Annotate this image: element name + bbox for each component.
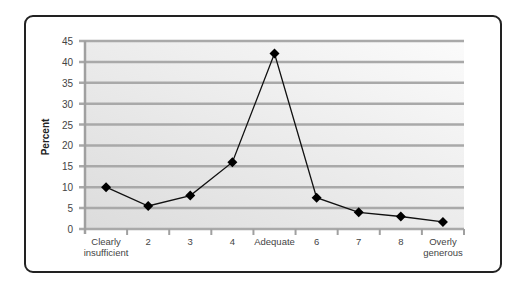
y-tick-label: 30 bbox=[62, 98, 73, 109]
plot-area bbox=[85, 41, 464, 229]
y-tick-label: 35 bbox=[62, 77, 73, 88]
y-tick-label: 5 bbox=[67, 203, 73, 214]
y-tick-label: 25 bbox=[62, 119, 73, 130]
y-axis-label: Percent bbox=[40, 119, 51, 156]
y-tick-label: 40 bbox=[62, 56, 73, 67]
y-tick-label: 15 bbox=[62, 161, 73, 172]
y-tick-label: 0 bbox=[67, 224, 73, 235]
y-tick-label: 45 bbox=[62, 36, 73, 47]
x-tick-label: Overlygenerous bbox=[408, 236, 478, 258]
y-tick-label: 10 bbox=[62, 182, 73, 193]
y-tick-label: 20 bbox=[62, 140, 73, 151]
